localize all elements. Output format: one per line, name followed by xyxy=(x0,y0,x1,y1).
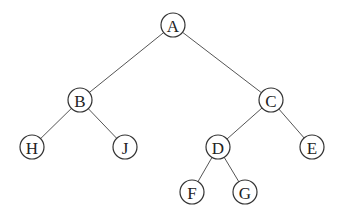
node-label: G xyxy=(239,184,251,203)
node-b: B xyxy=(68,88,92,112)
node-label: H xyxy=(26,139,38,158)
node-label: D xyxy=(212,139,224,158)
node-j: J xyxy=(113,135,137,159)
node-h: H xyxy=(20,135,44,159)
edge-a-c xyxy=(173,25,271,100)
node-label: A xyxy=(167,17,180,36)
node-e: E xyxy=(300,135,324,159)
node-f: F xyxy=(180,180,204,204)
binary-tree-diagram: A B C H J D E F G xyxy=(0,0,345,221)
node-a: A xyxy=(161,13,185,37)
node-label: J xyxy=(122,139,129,158)
tree-nodes: A B C H J D E F G xyxy=(20,13,324,204)
node-label: E xyxy=(307,139,317,158)
node-c: C xyxy=(259,88,283,112)
node-g: G xyxy=(233,180,257,204)
edge-a-b xyxy=(80,25,173,100)
node-label: C xyxy=(265,92,276,111)
node-d: D xyxy=(206,135,230,159)
node-label: B xyxy=(74,92,85,111)
node-label: F xyxy=(187,184,196,203)
